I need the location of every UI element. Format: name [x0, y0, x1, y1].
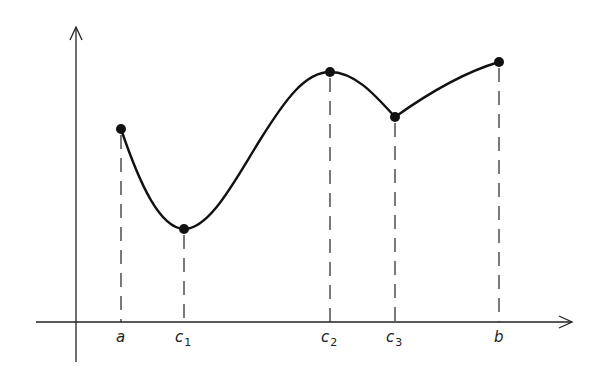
label-a: a — [116, 328, 125, 346]
point-c3 — [390, 112, 400, 122]
function-graph: a c1 c2 c3 b — [0, 0, 598, 374]
label-c1: c1 — [175, 328, 191, 349]
point-b — [494, 57, 504, 67]
point-c2 — [325, 67, 335, 77]
function-curve — [121, 62, 499, 229]
point-c1 — [179, 224, 189, 234]
label-c2: c2 — [321, 328, 337, 349]
point-a — [116, 124, 126, 134]
label-b: b — [494, 328, 504, 346]
drop-lines — [121, 68, 499, 322]
label-c3: c3 — [386, 328, 402, 349]
